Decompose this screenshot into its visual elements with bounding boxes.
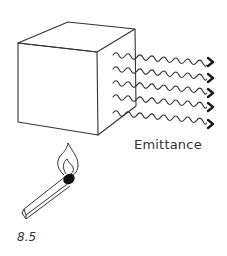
arrowhead-icon (208, 120, 213, 128)
flame-icon (58, 143, 78, 175)
arrowhead-icon (208, 74, 213, 82)
emittance-label: Emittance (134, 137, 202, 152)
match-icon (22, 143, 78, 219)
wave-4 (113, 95, 207, 109)
emittance-diagram (0, 0, 227, 256)
figure-number: 8.5 (17, 230, 36, 244)
arrowheads (208, 58, 213, 128)
arrowhead-icon (208, 58, 213, 66)
wave-2 (113, 67, 207, 81)
wave-1 (113, 53, 207, 67)
illustration (0, 0, 227, 256)
arrowhead-icon (208, 89, 213, 97)
wave-5 (113, 111, 207, 125)
wave-3 (113, 81, 207, 95)
arrowhead-icon (208, 103, 213, 111)
cube-icon (18, 22, 136, 135)
